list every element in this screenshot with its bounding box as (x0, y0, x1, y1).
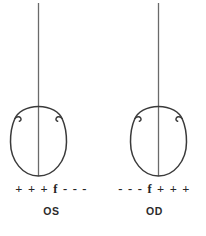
right-ear-icon (56, 117, 62, 122)
eye-designation-od: OD (103, 204, 206, 218)
vergence-notation-os: + + + f - - - (0, 182, 103, 196)
right-ear-icon (176, 117, 182, 122)
eye-panel-os: + + + f - - - OS (0, 0, 103, 236)
vergence-diagram-figure: + + + f - - - OS - - - f + + + OD (0, 0, 206, 236)
eye-panel-od: - - - f + + + OD (103, 0, 206, 236)
vergence-notation-od: - - - f + + + (103, 182, 206, 196)
head-outline-os (0, 0, 103, 180)
left-ear-icon (135, 117, 141, 122)
head-outline-od (103, 0, 206, 180)
left-ear-icon (15, 117, 21, 122)
eye-designation-os: OS (0, 204, 103, 218)
